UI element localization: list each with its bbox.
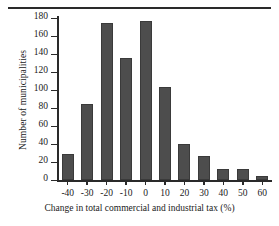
y-tick-mark xyxy=(51,180,57,182)
y-tick-label: 120 xyxy=(34,65,48,75)
x-tick-mark xyxy=(184,180,186,185)
bar xyxy=(237,169,249,180)
y-tick-label: 160 xyxy=(34,29,48,39)
x-tick-mark xyxy=(223,180,225,185)
y-tick-mark xyxy=(51,108,57,110)
y-tick-mark xyxy=(51,36,57,38)
y-tick-label: 40 xyxy=(39,137,49,147)
x-tick-label: 60 xyxy=(248,188,276,198)
bar xyxy=(120,58,132,180)
x-axis-title: Change in total commercial and industria… xyxy=(0,203,279,213)
y-axis-title: Number of municipalities xyxy=(18,20,28,180)
y-tick-mark xyxy=(51,72,57,74)
bar xyxy=(178,144,190,180)
x-tick-mark xyxy=(106,180,108,185)
bar xyxy=(62,154,74,180)
y-tick-mark xyxy=(51,18,57,20)
figure-top-rule xyxy=(8,7,271,9)
y-tick-label: 100 xyxy=(34,83,48,93)
bar xyxy=(81,104,93,180)
bar xyxy=(198,156,210,180)
y-tick-mark xyxy=(51,90,57,92)
x-tick-mark xyxy=(145,180,147,185)
x-tick-mark xyxy=(203,180,205,185)
y-tick-label: 20 xyxy=(39,155,49,165)
bar xyxy=(159,87,171,180)
y-tick-label: 80 xyxy=(39,101,49,111)
y-tick-mark xyxy=(51,162,57,164)
y-tick-mark xyxy=(51,54,57,56)
x-tick-mark xyxy=(242,180,244,185)
y-tick-mark xyxy=(51,144,57,146)
y-tick-label: 60 xyxy=(39,119,49,129)
y-tick-label: 140 xyxy=(34,47,48,57)
x-tick-mark xyxy=(67,180,69,185)
x-tick-mark xyxy=(262,180,264,185)
histogram-figure: Number of municipalities 020406080100120… xyxy=(0,0,279,226)
x-tick-mark xyxy=(125,180,127,185)
x-tick-mark xyxy=(164,180,166,185)
y-tick-label: 180 xyxy=(34,11,48,21)
y-tick-label: 0 xyxy=(43,173,48,183)
plot-area xyxy=(58,18,272,180)
bar xyxy=(101,23,113,181)
bar xyxy=(256,176,268,180)
bar xyxy=(140,21,152,180)
x-tick-mark xyxy=(86,180,88,185)
y-tick-mark xyxy=(51,126,57,128)
bar xyxy=(217,169,229,180)
